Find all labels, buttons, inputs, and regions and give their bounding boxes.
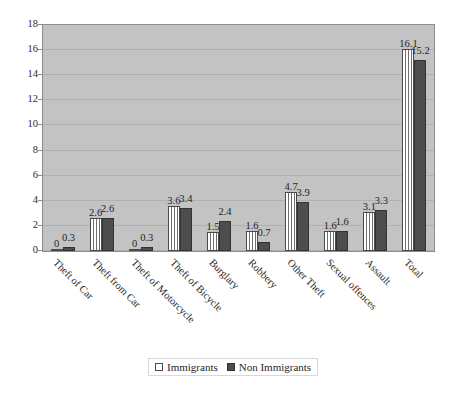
bar-immigrants: 4.7 bbox=[285, 192, 297, 251]
y-axis-tick-label: 0 bbox=[2, 245, 38, 255]
y-axis-tick-label: 12 bbox=[2, 94, 38, 104]
y-axis-tick-label: 4 bbox=[2, 195, 38, 205]
bar-non-immigrants: 3.3 bbox=[375, 210, 387, 251]
bar-immigrants: 16.1 bbox=[402, 49, 414, 251]
bar-immigrants: 0 bbox=[51, 249, 63, 251]
bar-value-label: 0.3 bbox=[140, 232, 153, 243]
bar-group: 1.61.6 bbox=[317, 25, 356, 251]
bar-value-label: 0.7 bbox=[257, 227, 270, 238]
y-axis-tick-label: 14 bbox=[2, 69, 38, 79]
legend-item-immigrants: Immigrants bbox=[155, 361, 218, 373]
bar-non-immigrants: 0.3 bbox=[141, 247, 153, 251]
chart-legend: Immigrants Non Immigrants bbox=[148, 358, 318, 376]
bar-group: 1.52.4 bbox=[199, 25, 238, 251]
y-axis-tick-label: 16 bbox=[2, 44, 38, 54]
bar-non-immigrants: 0.3 bbox=[63, 247, 75, 251]
x-axis-category-labels: Theft of CarTheft from CarTheft of Motor… bbox=[43, 253, 434, 348]
legend-swatch-non-immigrants-icon bbox=[227, 363, 235, 371]
bar-value-label: 2.4 bbox=[218, 206, 231, 217]
bar-series-container: 00.32.62.600.33.63.41.52.41.60.74.73.91.… bbox=[43, 25, 434, 251]
bar-group: 2.62.6 bbox=[82, 25, 121, 251]
bar-group: 00.3 bbox=[43, 25, 82, 251]
bar-immigrants: 3.6 bbox=[168, 206, 180, 251]
x-axis-label: Theft of Car bbox=[51, 257, 95, 301]
x-axis-label: Assault bbox=[364, 257, 394, 287]
bar-value-label: 1.5 bbox=[206, 221, 219, 232]
bar-non-immigrants: 2.6 bbox=[102, 218, 114, 251]
bar-value-label: 3.9 bbox=[297, 187, 310, 198]
bar-immigrants: 0 bbox=[129, 249, 141, 251]
y-axis-tick-label: 10 bbox=[2, 119, 38, 129]
bar-group: 3.13.3 bbox=[356, 25, 395, 251]
y-axis-tick-label: 8 bbox=[2, 145, 38, 155]
y-axis-tick-mark bbox=[38, 74, 42, 75]
bar-value-label: 2.6 bbox=[101, 203, 114, 214]
y-axis-tick-mark bbox=[38, 124, 42, 125]
y-axis-tick-mark bbox=[38, 99, 42, 100]
y-axis-tick-mark bbox=[38, 175, 42, 176]
x-axis-label: Robbery bbox=[246, 257, 279, 290]
bar-value-label: 0.3 bbox=[62, 232, 75, 243]
bar-non-immigrants: 3.9 bbox=[297, 202, 309, 251]
y-axis-tick-mark bbox=[38, 250, 42, 251]
y-axis-tick-mark bbox=[38, 225, 42, 226]
x-axis-label: Burglary bbox=[207, 257, 241, 291]
bar-non-immigrants: 2.4 bbox=[219, 221, 231, 251]
bar-value-label: 0 bbox=[132, 238, 137, 249]
legend-swatch-immigrants-icon bbox=[155, 363, 163, 371]
legend-item-non-immigrants: Non Immigrants bbox=[227, 361, 311, 373]
y-axis-tick-mark bbox=[38, 49, 42, 50]
bar-group: 16.115.2 bbox=[395, 25, 434, 251]
bar-immigrants: 1.6 bbox=[324, 231, 336, 251]
legend-label-immigrants: Immigrants bbox=[167, 361, 218, 373]
bar-group: 3.63.4 bbox=[160, 25, 199, 251]
x-axis-label: Other Theft bbox=[285, 257, 327, 299]
bar-immigrants: 1.5 bbox=[207, 232, 219, 251]
bar-group: 4.73.9 bbox=[278, 25, 317, 251]
bar-group: 00.3 bbox=[121, 25, 160, 251]
y-axis-tick-mark bbox=[38, 150, 42, 151]
bar-group: 1.60.7 bbox=[239, 25, 278, 251]
y-axis-tick-label: 18 bbox=[2, 19, 38, 29]
bar-immigrants: 2.6 bbox=[90, 218, 102, 251]
bar-value-label: 0 bbox=[54, 238, 59, 249]
y-axis-tick-mark bbox=[38, 200, 42, 201]
legend-label-non-immigrants: Non Immigrants bbox=[239, 361, 311, 373]
bar-chart: 181614121086420 00.32.62.600.33.63.41.52… bbox=[0, 0, 449, 395]
bar-non-immigrants: 3.4 bbox=[180, 208, 192, 251]
bar-immigrants: 3.1 bbox=[363, 212, 375, 251]
bar-non-immigrants: 0.7 bbox=[258, 242, 270, 251]
y-axis-tick-mark bbox=[38, 24, 42, 25]
bar-non-immigrants: 15.2 bbox=[414, 60, 426, 251]
x-axis-label: Total bbox=[403, 257, 426, 280]
y-axis-tick-label: 6 bbox=[2, 170, 38, 180]
bar-value-label: 3.3 bbox=[375, 195, 388, 206]
bar-value-label: 3.4 bbox=[179, 193, 192, 204]
y-axis-tick-label: 2 bbox=[2, 220, 38, 230]
bar-non-immigrants: 1.6 bbox=[336, 231, 348, 251]
bar-value-label: 15.2 bbox=[411, 45, 429, 56]
bar-value-label: 1.6 bbox=[336, 216, 349, 227]
bar-immigrants: 1.6 bbox=[246, 231, 258, 251]
y-axis: 181614121086420 bbox=[0, 24, 38, 252]
